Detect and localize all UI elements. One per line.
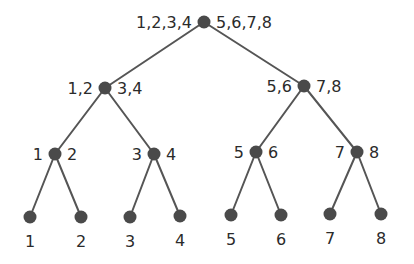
node-label-right-n12_34: 3,4 [117,79,142,98]
leaf-label-leaf7: 7 [325,229,335,248]
leaf-label-leaf3: 3 [125,232,135,251]
tree-node-n7_8 [351,146,364,159]
node-label-right-n3_4: 4 [166,145,176,164]
tree-nodes [24,16,388,224]
node-label-right-n7_8: 8 [369,143,379,162]
node-label-left-n1_2: 1 [33,145,43,164]
tree-node-leaf3 [124,211,137,224]
node-label-left-n7_8: 7 [335,143,345,162]
tree-node-n12_34 [99,82,112,95]
tree-node-leaf6 [275,209,288,222]
node-label-left-n56_78: 5,6 [267,77,292,96]
tree-node-leaf1 [24,211,37,224]
tree-node-n1_2 [49,148,62,161]
tree-node-root [198,16,211,29]
node-label-left-n5_6: 5 [234,143,244,162]
tree-node-leaf4 [174,210,187,223]
node-label-right-root: 5,6,7,8 [216,13,272,32]
tree-node-leaf8 [375,208,388,221]
node-label-left-n12_34: 1,2 [68,79,93,98]
tree-node-leaf5 [225,209,238,222]
tree-node-leaf2 [75,211,88,224]
leaf-label-leaf2: 2 [76,232,86,251]
leaf-label-leaf8: 8 [376,229,386,248]
binary-tree-diagram: 1,2,3,45,6,7,81,23,45,67,812345678123456… [0,0,414,264]
leaf-label-leaf5: 5 [226,230,236,249]
node-label-right-n56_78: 7,8 [316,77,341,96]
leaf-label-leaf4: 4 [175,231,185,250]
tree-edges [30,22,381,217]
tree-node-n56_78 [298,80,311,93]
tree-node-n3_4 [148,148,161,161]
leaf-label-leaf1: 1 [25,232,35,251]
tree-node-leaf7 [324,208,337,221]
leaf-label-leaf6: 6 [276,230,286,249]
node-label-left-n3_4: 3 [132,145,142,164]
node-label-right-n1_2: 2 [67,145,77,164]
tree-node-n5_6 [250,146,263,159]
node-label-left-root: 1,2,3,4 [136,13,192,32]
node-label-right-n5_6: 6 [268,143,278,162]
